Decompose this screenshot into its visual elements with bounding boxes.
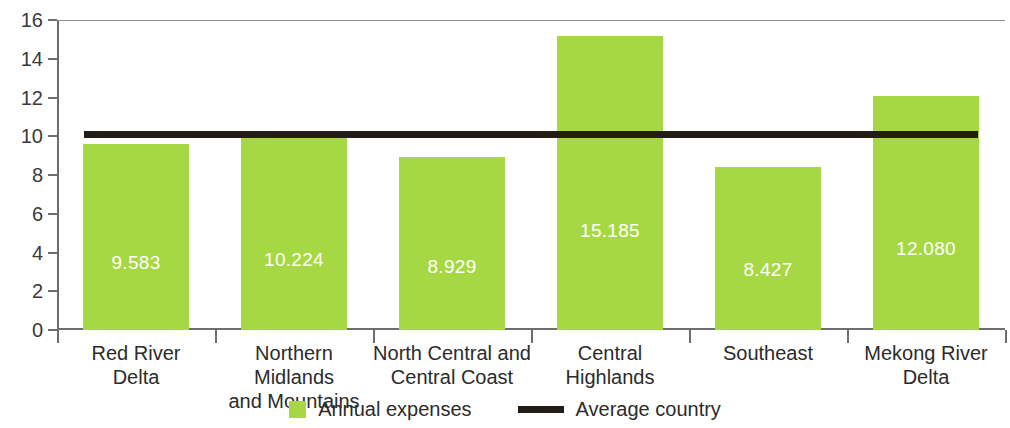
y-axis-tick-label: 14 <box>21 46 43 72</box>
y-axis-tick-label: 0 <box>32 317 43 343</box>
legend-swatch-line-icon <box>518 406 564 413</box>
x-axis-category-label-line: Highlands <box>531 365 689 389</box>
legend-label-average-country: Average country <box>576 398 721 421</box>
bar[interactable]: 9.583 <box>83 144 190 330</box>
y-axis-tick-label: 8 <box>32 162 43 188</box>
x-axis-category-label: Red RiverDelta <box>57 341 215 389</box>
bars-layer: 9.58310.2248.92915.1858.42712.080 <box>57 20 1005 330</box>
bar-value-label: 10.224 <box>241 249 348 271</box>
y-axis-tick-mark <box>48 135 57 137</box>
bar-value-label: 8.427 <box>715 259 822 281</box>
y-axis-tick-label: 4 <box>32 240 43 266</box>
legend-label-annual-expenses: Annual expenses <box>318 398 471 421</box>
bar-chart: 1614121086420 9.58310.2248.92915.1858.42… <box>0 0 1010 428</box>
y-axis-tick-mark <box>48 58 57 60</box>
y-axis-tick-label: 10 <box>21 123 43 149</box>
bar-value-label: 12.080 <box>873 238 980 260</box>
x-axis-category-label: CentralHighlands <box>531 341 689 389</box>
x-axis-category-label-line: Northern Midlands <box>215 341 373 389</box>
x-axis-category-label: Southeast <box>689 341 847 365</box>
bar-value-label: 9.583 <box>83 252 190 274</box>
x-axis-category-label-line: Red River <box>57 341 215 365</box>
x-axis-category-label: North Central andCentral Coast <box>373 341 531 389</box>
x-axis-category-label-line: Central Coast <box>373 365 531 389</box>
y-axis-tick-mark <box>48 213 57 215</box>
bar[interactable]: 8.427 <box>715 167 822 330</box>
x-axis-category-label-line: Delta <box>57 365 215 389</box>
bar[interactable]: 8.929 <box>399 157 506 330</box>
y-axis-tick-label: 16 <box>21 7 43 33</box>
legend-item-annual-expenses[interactable]: Annual expenses <box>289 398 471 421</box>
y-axis-tick-mark <box>48 290 57 292</box>
x-axis-category-label-line: Central <box>531 341 689 365</box>
average-country-line <box>84 131 979 138</box>
bar-value-label: 8.929 <box>399 256 506 278</box>
x-axis-category-label: Mekong RiverDelta <box>847 341 1005 389</box>
y-axis-tick-label: 2 <box>32 278 43 304</box>
chart-legend: Annual expenses Average country <box>0 398 1010 421</box>
y-axis-tick-mark <box>48 19 57 21</box>
x-axis-category-label-line: Delta <box>847 365 1005 389</box>
legend-swatch-square-icon <box>289 401 306 418</box>
bar[interactable]: 15.185 <box>557 36 664 330</box>
legend-item-average-country[interactable]: Average country <box>518 398 721 421</box>
y-axis-tick-mark <box>48 97 57 99</box>
bar-value-label: 15.185 <box>557 220 664 242</box>
x-axis-category-label-line: Southeast <box>689 341 847 365</box>
bar[interactable]: 10.224 <box>241 132 348 330</box>
y-axis-tick-label: 6 <box>32 201 43 227</box>
x-axis-separator-tick <box>1005 330 1007 343</box>
y-axis-tick-mark <box>48 174 57 176</box>
y-axis-tick-mark <box>48 329 57 331</box>
y-axis-tick-mark <box>48 252 57 254</box>
x-axis-category-label-line: Mekong River <box>847 341 1005 365</box>
x-axis-category-label-line: North Central and <box>373 341 531 365</box>
y-axis-tick-label: 12 <box>21 85 43 111</box>
